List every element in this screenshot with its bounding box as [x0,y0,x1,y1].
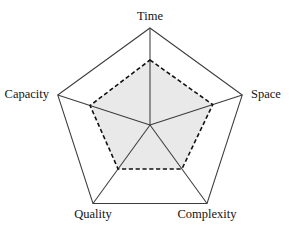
axis-label-space: Space [251,87,281,101]
axis-label-capacity: Capacity [5,87,50,101]
radar-chart-svg: Time Space Complexity Quality Capacity [0,0,295,230]
axis-label-complexity: Complexity [177,207,237,221]
axis-label-time: Time [137,9,163,23]
axis-label-quality: Quality [74,207,112,221]
radar-chart-figure: Time Space Complexity Quality Capacity [0,0,295,230]
